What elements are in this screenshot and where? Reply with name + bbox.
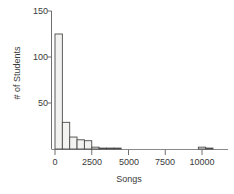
plot-area (0, 0, 234, 194)
histogram-bar (62, 122, 69, 149)
histogram-bar (84, 141, 91, 149)
histogram-bar (77, 140, 84, 149)
histogram-bar (92, 147, 99, 149)
histogram-bar (99, 148, 106, 149)
y-tick-marks (47, 11, 52, 103)
histogram-bar (198, 147, 205, 149)
histogram-bar (55, 34, 62, 149)
histogram-bar (70, 137, 77, 149)
histogram-bar (206, 148, 213, 149)
histogram-bars (55, 34, 213, 149)
x-tick-marks (55, 150, 202, 156)
axes (47, 11, 228, 155)
histogram-bar (114, 148, 121, 149)
histogram-bar (106, 148, 113, 149)
histogram-figure: # of Students 150 100 50 0 2500 5000 750… (0, 0, 234, 194)
